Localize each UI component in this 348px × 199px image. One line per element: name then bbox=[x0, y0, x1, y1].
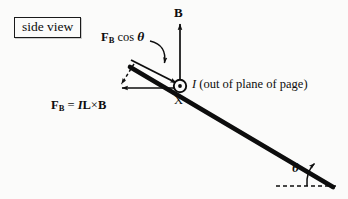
side-view-caption-box: side view bbox=[14, 17, 81, 38]
fbcos-operator: cos bbox=[114, 30, 137, 44]
fb-equals: = bbox=[64, 98, 77, 112]
force-equation-label: FB = IL×B bbox=[51, 99, 106, 113]
incline-angle-label: θ bbox=[292, 161, 299, 175]
fb-length: L bbox=[83, 98, 91, 112]
fbcos-angle: θ bbox=[137, 29, 144, 44]
fbcos-leader-arrow bbox=[150, 41, 165, 63]
fbcos-symbol: F bbox=[101, 30, 109, 44]
side-view-label: side view bbox=[22, 19, 73, 34]
current-out-of-page-icon bbox=[174, 80, 186, 92]
force-component-label: FB cos θ bbox=[101, 30, 144, 45]
current-label: I (out of plane of page) bbox=[192, 78, 308, 91]
current-description: (out of plane of page) bbox=[196, 77, 307, 91]
fb-symbol: F bbox=[51, 98, 59, 112]
rod-marker-label: X bbox=[174, 94, 183, 107]
fb-cross-icon: × bbox=[91, 98, 98, 112]
physics-diagram-side-view: side view FB cos θ B I (out of plane of … bbox=[0, 0, 348, 199]
fb-field: B bbox=[98, 98, 106, 112]
magnetic-field-label: B bbox=[174, 6, 183, 19]
